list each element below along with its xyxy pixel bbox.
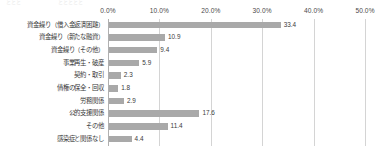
- bar: [109, 72, 121, 79]
- bar: [109, 85, 118, 92]
- value-label: 4.4: [135, 133, 144, 146]
- bar-row: 資金繰り（新たな融資）10.9: [0, 31, 390, 44]
- bar-row: 契約・取引2.3: [0, 69, 390, 82]
- remnant-text-mid: ととととと: [58, 0, 83, 5]
- value-label: 1.8: [121, 82, 130, 95]
- value-label: 9.4: [160, 44, 169, 57]
- category-label: 資金繰り（借入金返済困難）: [0, 19, 104, 32]
- value-label: 17.6: [202, 107, 214, 120]
- bar: [109, 60, 139, 67]
- value-label: 5.9: [142, 57, 151, 70]
- value-label: 10.9: [168, 31, 180, 44]
- bar: [109, 110, 199, 117]
- category-label: その他: [0, 120, 104, 133]
- bar: [109, 136, 132, 143]
- category-label: 感染症と関係なし: [0, 133, 104, 146]
- x-axis-tick-labels: 0.0%10.0%20.0%30.0%40.0%50.0%: [0, 7, 390, 18]
- x-tick-label-2: 20.0%: [201, 7, 220, 14]
- bar-row: 資金繰り（その他）9.4: [0, 44, 390, 57]
- chart-rows: 資金繰り（借入金返済困難）33.4資金繰り（新たな融資）10.9資金繰り（その他…: [0, 19, 390, 146]
- category-label: 債権の保全・回収: [0, 82, 104, 95]
- x-tick-label-0: 0.0%: [100, 7, 115, 14]
- cut-off-text-remnant: ととと ととととと: [0, 0, 390, 7]
- category-label: 事業再生・破産: [0, 57, 104, 70]
- x-tick-label-4: 40.0%: [304, 7, 323, 14]
- bar-row: 資金繰り（借入金返済困難）33.4: [0, 19, 390, 32]
- x-tick-label-5: 50.0%: [355, 7, 374, 14]
- bar: [109, 22, 281, 29]
- bar-row: 感染症と関係なし4.4: [0, 133, 390, 146]
- bar: [109, 47, 157, 54]
- value-label: 2.9: [127, 95, 136, 108]
- bar-row: 事業再生・破産5.9: [0, 57, 390, 70]
- category-label: 公的支援関係: [0, 107, 104, 120]
- value-label: 33.4: [284, 19, 296, 32]
- value-label: 11.4: [171, 120, 183, 133]
- x-tick-label-1: 10.0%: [150, 7, 169, 14]
- bar: [109, 123, 168, 130]
- category-label: 資金繰り（その他）: [0, 44, 104, 57]
- value-label: 2.3: [124, 69, 133, 82]
- remnant-text-left: ととと: [6, 0, 21, 5]
- bar-chart: ととと ととととと 0.0%10.0%20.0%30.0%40.0%50.0% …: [0, 0, 390, 154]
- category-label: 契約・取引: [0, 69, 104, 82]
- x-tick-label-3: 30.0%: [253, 7, 272, 14]
- category-label: 労務関係: [0, 95, 104, 108]
- bar-row: 労務関係2.9: [0, 95, 390, 108]
- bar: [109, 98, 124, 105]
- bar-row: 公的支援関係17.6: [0, 107, 390, 120]
- bar-row: その他11.4: [0, 120, 390, 133]
- bar: [109, 34, 165, 41]
- bar-row: 債権の保全・回収1.8: [0, 82, 390, 95]
- category-label: 資金繰り（新たな融資）: [0, 31, 104, 44]
